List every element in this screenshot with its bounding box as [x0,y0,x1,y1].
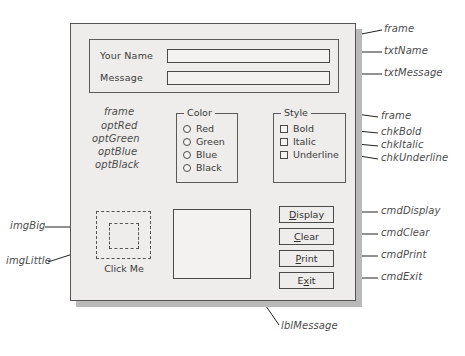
field-row-message: Message [90,71,338,89]
annotation-imglittle: imgLittle [6,255,51,266]
display-button[interactable]: Display [279,206,334,223]
frame-color: Color Red Green Blue Black [176,113,238,183]
print-button-label: Print [296,253,318,264]
display-button-rest: isplay [296,209,324,220]
option-black-label: Black [196,162,222,173]
style-group-caption: Style [281,107,311,118]
annotation-cmddisplay: cmdDisplay [381,205,440,216]
option-black[interactable]: Black [183,160,222,175]
clear-button-label: Clear [294,231,319,242]
field-row-name: Your Name [90,49,338,67]
annotation-frame-top: frame [384,23,414,34]
checkbox-icon[interactable] [280,151,288,159]
checkbox-italic-label: Italic [293,136,316,147]
exit-button-rest: it [309,275,315,286]
exit-button[interactable]: Exit [279,272,334,289]
option-blue-label: Blue [196,149,217,160]
imgLittle-placeholder[interactable] [109,223,139,249]
annotation-lblmessage: lblMessage [281,320,338,331]
radio-icon[interactable] [183,125,191,133]
checkbox-icon[interactable] [280,138,288,146]
diagram-canvas: Your Name Message Color Red Green Blue [0,0,465,356]
click-me-caption: Click Me [87,263,161,274]
your-name-label: Your Name [100,50,153,61]
radio-icon[interactable] [183,151,191,159]
checkbox-icon[interactable] [280,125,288,133]
lblMessage-output [173,209,251,279]
checkbox-bold-label: Bold [293,123,314,134]
annotation-frame-color: frame [104,106,134,117]
radio-icon[interactable] [183,164,191,172]
message-label: Message [100,72,143,83]
txtMessage-input[interactable] [167,71,330,85]
option-green-label: Green [196,136,225,147]
annotation-chkbold: chkBold [381,126,421,137]
display-button-label: Display [289,209,324,220]
frame-top: Your Name Message [89,39,339,93]
annotation-cmdprint: cmdPrint [381,249,427,260]
color-group-caption: Color [184,107,215,118]
radio-icon[interactable] [183,138,191,146]
txtName-input[interactable] [167,49,330,63]
annotation-cmdexit: cmdExit [381,271,422,282]
annotation-optgreen: optGreen [92,133,140,144]
annotation-optred: optRed [101,120,137,131]
print-button[interactable]: Print [279,250,334,267]
print-button-rest: rint [301,253,317,264]
option-red-label: Red [196,123,214,134]
annotation-imgbig: imgBig [10,220,45,231]
annotation-optblack: optBlack [95,159,139,170]
annotation-txtmessage: txtMessage [384,67,443,78]
annotation-frame-style: frame [381,110,411,121]
clear-button-rest: lear [301,231,319,242]
annotation-cmdclear: cmdClear [381,227,430,238]
annotation-optblue: optBlue [98,146,137,157]
accel-c: C [294,231,301,242]
checkbox-underline-label: Underline [293,149,339,160]
clear-button[interactable]: Clear [279,228,334,245]
frame-style: Style Bold Italic Underline [273,113,346,183]
exit-button-label: Exit [297,275,315,286]
annotation-txtname: txtName [384,45,428,56]
checkbox-underline[interactable]: Underline [280,147,339,162]
annotation-chkitalic: chkItalic [381,139,424,150]
annotation-chkunderline: chkUnderline [381,152,448,163]
